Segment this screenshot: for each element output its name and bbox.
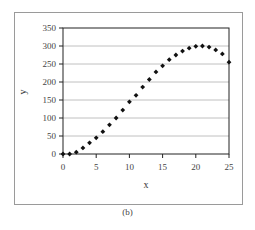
data-point-marker bbox=[220, 52, 225, 57]
data-point-marker bbox=[67, 152, 72, 157]
data-point-marker bbox=[87, 140, 92, 145]
data-point-marker bbox=[173, 53, 178, 58]
data-point-marker bbox=[114, 116, 119, 121]
data-point-marker bbox=[213, 48, 218, 53]
x-tick-label: 5 bbox=[94, 162, 99, 172]
data-point-marker bbox=[167, 57, 172, 62]
y-tick-label: 300 bbox=[43, 41, 57, 51]
x-axis-label: x bbox=[144, 179, 149, 190]
figure-caption: (b) bbox=[0, 207, 255, 217]
scatter-chart: 050100150200250300350 0510152025 x y bbox=[0, 0, 255, 230]
x-axis-ticks: 0510152025 bbox=[61, 154, 234, 172]
x-tick-label: 10 bbox=[125, 162, 135, 172]
y-axis-ticks: 050100150200250300350 bbox=[43, 23, 64, 159]
data-point-marker bbox=[193, 44, 198, 49]
data-point-marker bbox=[107, 122, 112, 127]
data-point-marker bbox=[200, 44, 205, 49]
y-axis-label: y bbox=[17, 90, 28, 95]
y-tick-label: 200 bbox=[43, 77, 57, 87]
plot-area-border bbox=[63, 28, 229, 154]
data-point-marker bbox=[61, 152, 66, 157]
x-tick-label: 0 bbox=[61, 162, 66, 172]
data-point-marker bbox=[180, 49, 185, 54]
y-tick-label: 350 bbox=[43, 23, 57, 33]
data-point-marker bbox=[207, 45, 212, 50]
data-point-marker bbox=[81, 145, 86, 150]
x-tick-label: 15 bbox=[158, 162, 168, 172]
data-point-marker bbox=[134, 93, 139, 98]
x-tick-label: 20 bbox=[191, 162, 201, 172]
data-point-marker bbox=[147, 77, 152, 82]
data-point-marker bbox=[120, 108, 125, 113]
y-tick-label: 100 bbox=[43, 113, 57, 123]
y-tick-label: 250 bbox=[43, 59, 57, 69]
y-tick-label: 0 bbox=[52, 149, 57, 159]
y-tick-label: 150 bbox=[43, 95, 57, 105]
x-tick-label: 25 bbox=[225, 162, 235, 172]
gridlines bbox=[63, 46, 229, 136]
data-point-marker bbox=[100, 129, 105, 134]
data-point-marker bbox=[154, 70, 159, 75]
data-point-marker bbox=[187, 46, 192, 51]
y-tick-label: 50 bbox=[47, 131, 57, 141]
data-point-marker bbox=[140, 85, 145, 90]
